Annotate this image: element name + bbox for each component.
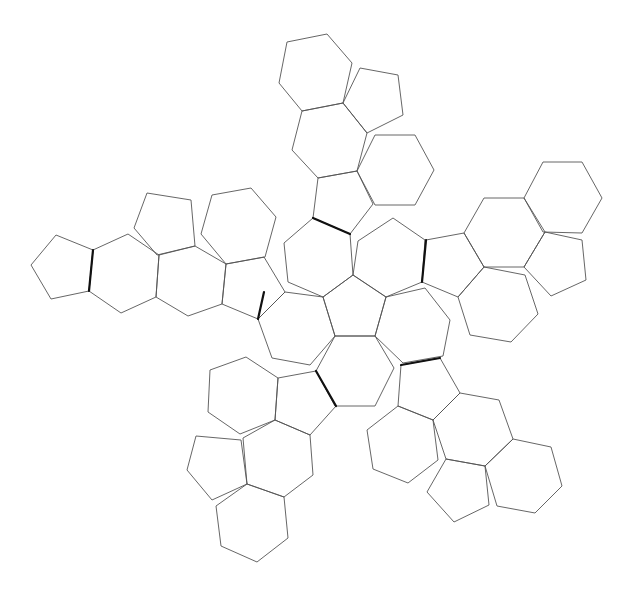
pentagon-face-left-pent-up — [134, 193, 195, 255]
hexagon-face-bottom-right-hex-2 — [485, 439, 562, 513]
pentagon-face-right-pent-side — [524, 232, 586, 296]
pentagon-face-right-pent-1 — [422, 233, 484, 297]
pentagon-face-bottom-left-pent-1 — [275, 371, 336, 435]
pentagon-face-left-pent-1 — [222, 257, 285, 319]
hinge-right — [422, 240, 426, 282]
hexagon-face-left-hex-up — [201, 188, 276, 264]
hinge-left-arm — [89, 250, 93, 291]
pentagon-face-left-pent-end — [31, 235, 93, 299]
hexagon-face-hex-left — [258, 292, 335, 365]
hinge-bottom-left — [316, 371, 336, 406]
pentagon-face-top-pent-1 — [313, 171, 373, 234]
pentagon-face-top-pent-side — [343, 68, 403, 133]
hexagon-face-bottom-right-hex-down — [367, 406, 438, 483]
hexagon-face-left-hex-2 — [89, 234, 159, 313]
hexagon-face-right-hex-2 — [524, 162, 602, 233]
hexagon-face-bottom-left-hex-up — [208, 357, 278, 434]
hexagon-face-bottom-left-hex-2 — [216, 484, 288, 562]
pentagon-face-bottom-right-pent-side — [427, 459, 489, 522]
hexagon-face-right-hex-1 — [464, 198, 545, 267]
polyhedron-net — [0, 0, 633, 590]
pentagon-face-bottom-right-pent-1 — [398, 358, 460, 420]
hexagon-face-right-hex-low — [458, 267, 538, 342]
faces-layer — [31, 34, 602, 562]
hexagon-face-hex-top-right — [353, 218, 425, 297]
hexagon-face-top-hex-2 — [279, 34, 352, 111]
hexagon-face-hex-bottom — [316, 336, 394, 406]
hinge-bottom-right — [401, 358, 440, 365]
hexagon-face-top-hex-1 — [292, 103, 367, 178]
hexagon-face-bottom-right-hex-1 — [433, 393, 513, 466]
hexagon-face-hex-right — [375, 288, 450, 363]
hinge-top — [313, 218, 350, 234]
hexagon-face-bottom-left-hex-1 — [243, 420, 313, 497]
hexagon-face-left-hex-1 — [156, 246, 226, 316]
hinge-left-center — [258, 292, 264, 319]
